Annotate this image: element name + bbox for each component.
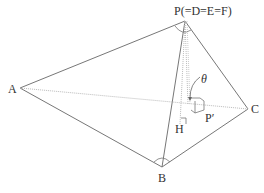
label-P: P(=D=E=F)	[174, 4, 232, 18]
theta-arrow	[190, 77, 200, 98]
angle-arc-B	[154, 158, 170, 162]
edge-PB	[162, 21, 185, 167]
edge-PA	[20, 21, 185, 88]
edge-AC-hidden	[20, 88, 248, 109]
right-angle-marker-Pprime	[191, 98, 204, 113]
label-B: B	[158, 171, 166, 185]
label-A: A	[8, 82, 17, 96]
label-theta: θ	[201, 72, 207, 86]
edge-AB	[20, 88, 162, 167]
label-H: H	[175, 122, 184, 136]
edge-PC	[185, 21, 248, 109]
label-C: C	[251, 102, 259, 116]
tetrahedron-diagram: P(=D=E=F) A B C H P′ θ	[0, 0, 264, 193]
label-Pprime: P′	[205, 111, 215, 125]
